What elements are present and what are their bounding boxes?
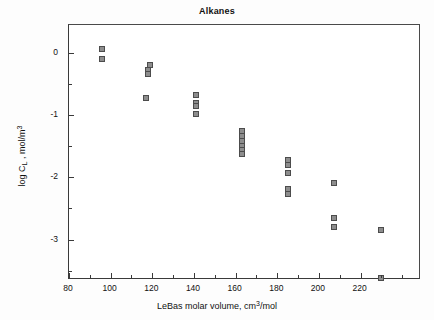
y-tick-minor xyxy=(69,208,72,209)
x-tick-minor xyxy=(381,275,382,278)
x-tick-label: 80 xyxy=(63,283,72,293)
data-point xyxy=(99,46,105,52)
y-axis-title: log CL , mol/m3 xyxy=(16,76,28,236)
x-tick-major xyxy=(277,273,278,278)
x-tick-major xyxy=(361,273,362,278)
scatter-points-layer xyxy=(69,25,419,278)
y-tick-minor xyxy=(69,271,72,272)
data-point xyxy=(285,170,291,176)
x-tick-major xyxy=(69,273,70,278)
y-axis-title-pre: log C xyxy=(17,165,27,186)
x-tick-major xyxy=(152,273,153,278)
x-tick-minor xyxy=(298,275,299,278)
x-tick-label: 100 xyxy=(103,283,117,293)
data-point xyxy=(331,180,337,186)
x-tick-major xyxy=(111,273,112,278)
x-tick-label: 180 xyxy=(269,283,283,293)
data-point xyxy=(143,95,149,101)
x-tick-minor xyxy=(340,275,341,278)
y-tick-label: -3 xyxy=(0,234,58,244)
x-tick-major xyxy=(319,273,320,278)
chart-figure: Alkanes 80100120140160180200220 0-1-2-3 … xyxy=(0,0,434,320)
y-tick-minor xyxy=(69,146,72,147)
data-point xyxy=(193,92,199,98)
y-tick-major xyxy=(69,115,74,116)
x-tick-minor xyxy=(215,275,216,278)
x-tick-minor xyxy=(90,275,91,278)
y-tick-major xyxy=(69,53,74,54)
data-point xyxy=(285,191,291,197)
x-tick-minor xyxy=(173,275,174,278)
x-tick-major xyxy=(194,273,195,278)
y-tick-major xyxy=(69,240,74,241)
y-axis-title-mid: , mol/m xyxy=(17,129,27,161)
y-tick-major xyxy=(69,177,74,178)
data-point xyxy=(145,71,151,77)
x-tick-major xyxy=(236,273,237,278)
x-axis-title-pre: LeBas molar volume, cm xyxy=(157,301,256,311)
data-point xyxy=(285,162,291,168)
chart-title: Alkanes xyxy=(0,6,434,16)
x-tick-label: 120 xyxy=(144,283,158,293)
y-tick-label: -2 xyxy=(0,171,58,181)
y-tick-label: -1 xyxy=(0,109,58,119)
y-axis-title-sup: 3 xyxy=(16,126,23,130)
x-tick-minor xyxy=(402,275,403,278)
data-point xyxy=(193,111,199,117)
data-point xyxy=(378,227,384,233)
x-tick-label: 140 xyxy=(186,283,200,293)
y-tick-label: 0 xyxy=(0,47,58,57)
y-axis-title-sub: L xyxy=(21,162,28,166)
x-axis-title: LeBas molar volume, cm3/mol xyxy=(0,300,434,311)
y-tick-minor xyxy=(69,84,72,85)
data-point xyxy=(193,103,199,109)
plot-area xyxy=(68,24,420,279)
x-axis-title-post: /mol xyxy=(260,301,277,311)
data-point xyxy=(331,215,337,221)
x-tick-label: 220 xyxy=(353,283,367,293)
data-point xyxy=(99,56,105,62)
data-point xyxy=(239,151,245,157)
x-tick-minor xyxy=(256,275,257,278)
x-tick-label: 160 xyxy=(228,283,242,293)
data-point xyxy=(331,224,337,230)
x-tick-label: 200 xyxy=(311,283,325,293)
x-tick-minor xyxy=(131,275,132,278)
